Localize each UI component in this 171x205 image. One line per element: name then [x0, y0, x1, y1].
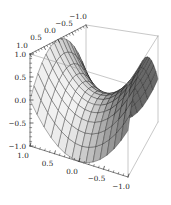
x-axis-tick-label: −1.0: [112, 182, 130, 191]
z-axis-tick-label: 0.5: [15, 73, 27, 82]
x-axis-tick-label: −0.5: [88, 174, 106, 183]
surface-plot-canvas: −1.0−0.50.00.51.0−1.0−0.50.00.51.0−1.0−0…: [0, 0, 171, 205]
y-axis-tick-label: 0.5: [30, 33, 42, 42]
z-axis-tick-label: −1.0: [9, 142, 27, 151]
y-axis-tick-label: 1.0: [16, 41, 28, 50]
figure: −1.0−0.50.00.51.0−1.0−0.50.00.51.0−1.0−0…: [0, 0, 171, 205]
z-axis-tick-label: 0.0: [15, 96, 27, 105]
x-axis-tick-label: 0.5: [42, 159, 54, 168]
y-axis-tick-label: 0.0: [44, 26, 56, 35]
x-axis-tick-label: 1.0: [17, 151, 29, 160]
x-axis-tick-label: 0.0: [66, 167, 78, 176]
y-axis-tick-label: −0.5: [55, 19, 73, 28]
z-axis-tick-label: 1.0: [15, 50, 27, 59]
z-axis-tick-label: −0.5: [9, 119, 27, 128]
